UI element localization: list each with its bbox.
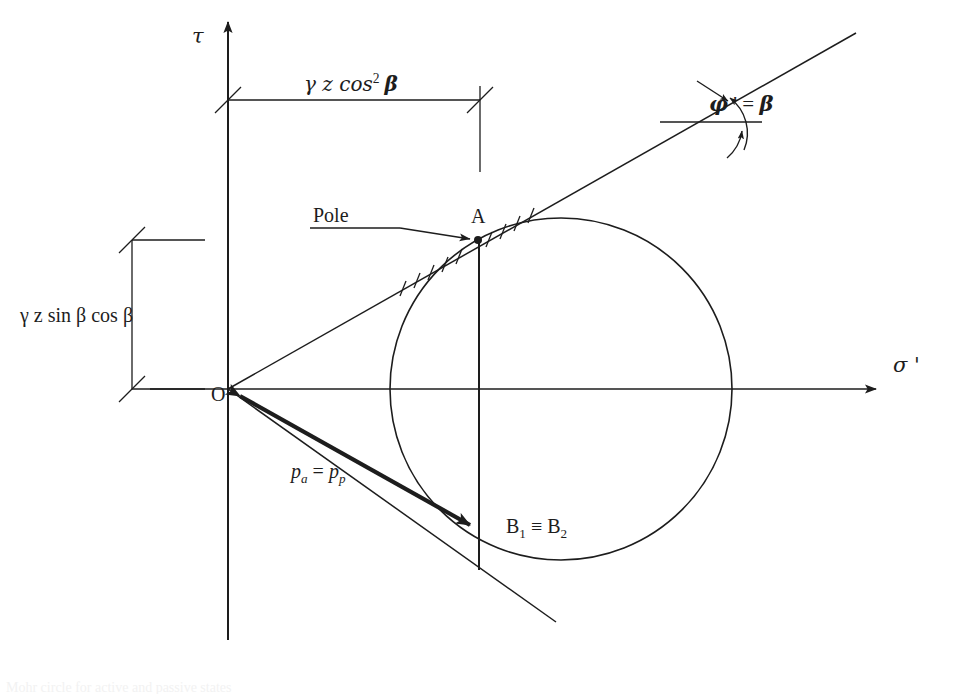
identity-symbol: ≡	[531, 515, 542, 537]
phi-symbol: φ	[709, 91, 728, 116]
mohr-circle-figure: τ σ ' γ z cos2 β γ z sin β cos β Pole A …	[0, 0, 956, 694]
hatch-marks-group	[400, 208, 534, 296]
pole-callout-group	[310, 228, 470, 239]
dimension-label-horizontal: γ z cos2 β	[304, 72, 398, 94]
pressure-vector	[240, 396, 470, 525]
lower-conjugate-line	[228, 389, 556, 622]
cos-exponent: 2	[373, 71, 380, 86]
b2-subscript: 2	[561, 526, 568, 541]
diagram-canvas	[0, 0, 956, 694]
pp-subscript: p	[339, 471, 346, 486]
point-label-a: A	[471, 206, 485, 226]
point-label-b1-b2: B1 ≡ B2	[506, 516, 567, 540]
friction-angle-label: φ ' = β	[709, 93, 773, 115]
pa-subscript: a	[301, 471, 308, 486]
point-label-origin: O	[211, 384, 225, 404]
beta-angle-symbol: β	[759, 91, 773, 116]
prime-symbol: '	[733, 92, 737, 116]
pole-leader-arrow	[400, 228, 470, 239]
equals-symbol: =	[313, 460, 324, 482]
pp-symbol: p	[329, 460, 339, 482]
pole-point-marker	[474, 236, 482, 244]
caption-fragment: Mohr circle for active and passive state…	[6, 681, 231, 694]
horizontal-dimension-group	[215, 86, 493, 172]
b2-letter: B	[547, 515, 560, 537]
angle-arc-lower	[727, 131, 742, 158]
b1-letter: B	[506, 515, 519, 537]
axis-label-tau: τ	[192, 26, 204, 47]
pressure-vector-group	[240, 396, 470, 525]
dimension-label-vertical: γ z sin β cos β	[20, 305, 133, 325]
b1-subscript: 1	[519, 526, 526, 541]
pole-callout-label: Pole	[313, 205, 349, 225]
pressure-vector-label: pa = pp	[291, 461, 345, 485]
angle-equals-symbol: =	[742, 92, 754, 116]
axis-label-sigma-prime: σ '	[893, 355, 920, 376]
gamma-symbol: γ z cos	[304, 72, 373, 96]
pa-symbol: p	[291, 460, 301, 482]
beta-symbol: β	[385, 72, 398, 96]
